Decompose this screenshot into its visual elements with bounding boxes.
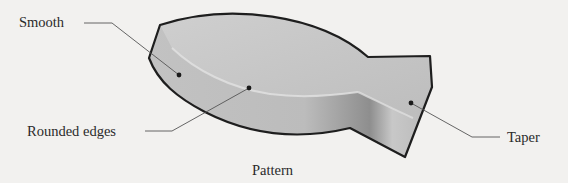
taper-marker-dot <box>409 101 414 106</box>
fish-pattern-diagram <box>0 0 568 183</box>
label-rounded-edges: Rounded edges <box>27 124 116 139</box>
label-taper: Taper <box>507 130 540 145</box>
rounded-edges-marker-dot <box>247 86 252 91</box>
smooth-marker-dot <box>177 73 182 78</box>
label-smooth: Smooth <box>19 15 64 30</box>
diagram-caption: Pattern <box>252 163 293 178</box>
